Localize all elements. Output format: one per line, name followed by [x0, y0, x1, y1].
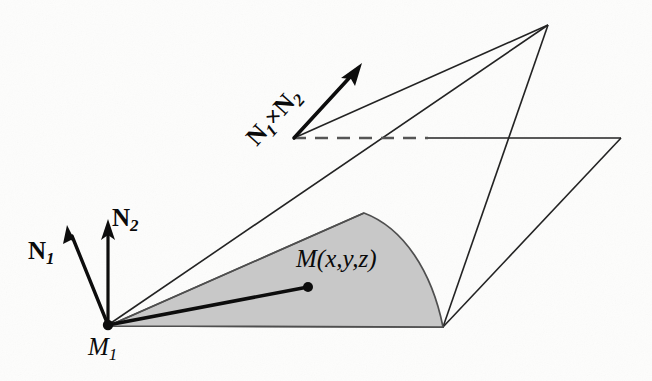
label-mxyz-base: M [296, 245, 317, 272]
point-marker-m1 [103, 320, 113, 330]
label-m-coordinates: M(x,y,z) [296, 246, 377, 271]
label-n1: N1 [28, 238, 55, 267]
label-n1-subscript: 1 [46, 249, 55, 268]
label-mxyz-args: (x,y,z) [317, 245, 377, 272]
label-n2-base: N [112, 204, 130, 231]
label-m1-base: M [88, 333, 109, 360]
label-n1-base: N [28, 237, 46, 264]
label-m1-subscript: 1 [109, 345, 118, 364]
label-m1: M1 [88, 334, 117, 363]
geometry-figure: N1 N2 N1×N2 M1 M(x,y,z) [0, 0, 652, 381]
label-n2-subscript: 2 [130, 216, 139, 235]
point-marker-m [303, 282, 313, 292]
label-n2: N2 [112, 205, 139, 234]
diagram-canvas [0, 0, 652, 381]
